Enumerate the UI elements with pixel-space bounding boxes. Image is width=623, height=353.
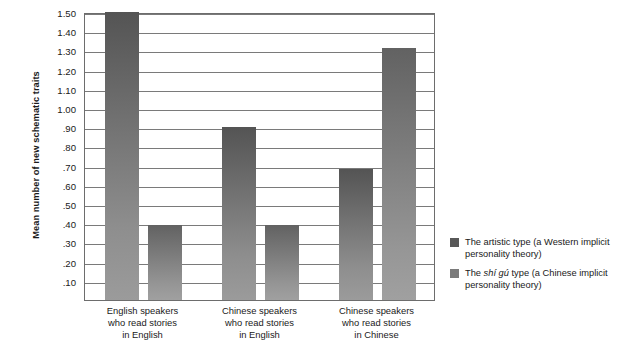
legend-item-1: The shí gú type (a Chinese implicitperso… — [450, 267, 618, 292]
bar-series-1-category-1 — [265, 225, 299, 300]
x-axis-category-line: in English — [84, 329, 201, 341]
bar-series-1-category-2 — [382, 48, 416, 300]
y-axis-tick-label: 1.10 — [57, 84, 76, 95]
x-axis-category-line: in English — [201, 329, 318, 341]
x-axis-category-line: English speakers — [84, 305, 201, 317]
y-axis-tick-label: 1.40 — [57, 27, 76, 38]
x-axis-category-label: English speakerswho read storiesin Engli… — [84, 305, 201, 342]
x-axis-category-labels: English speakerswho read storiesin Engli… — [84, 305, 435, 351]
legend-label: The shí gú type (a Chinese implicitperso… — [465, 267, 608, 292]
y-axis-tick-label: .80 — [63, 142, 76, 153]
x-axis-category-line: who read stories — [201, 317, 318, 329]
bar-series-0-category-0 — [105, 12, 139, 300]
y-axis-tick-label: 1.20 — [57, 65, 76, 76]
bar-series-container — [85, 14, 434, 300]
legend-label-line2: personality theory) — [465, 280, 541, 290]
bar-series-1-category-0 — [148, 225, 182, 300]
x-axis-category-label: Chinese speakerswho read storiesin Chine… — [318, 305, 435, 342]
y-axis-tick-label: 1.00 — [57, 104, 76, 115]
legend-swatch-icon — [450, 238, 459, 247]
bar-chart-figure: Mean number of new schematic traits 1.50… — [0, 0, 623, 353]
y-axis-tick-labels: 1.501.401.301.201.101.00.90.80.70.60.50.… — [40, 13, 80, 301]
x-axis-category-line: who read stories — [318, 317, 435, 329]
legend-label-italic-term: shí gú — [484, 268, 509, 278]
y-axis-tick-label: 1.30 — [57, 46, 76, 57]
bar-series-0-category-2 — [339, 169, 373, 300]
y-axis-tick-label: .90 — [63, 123, 76, 134]
legend-label: The artistic type (a Western implicitper… — [465, 236, 610, 261]
x-axis-category-line: who read stories — [84, 317, 201, 329]
x-axis-category-line: Chinese speakers — [201, 305, 318, 317]
bar-series-0-category-1 — [222, 127, 256, 300]
x-axis-category-line: Chinese speakers — [318, 305, 435, 317]
x-axis-category-label: Chinese speakerswho read storiesin Engli… — [201, 305, 318, 342]
y-axis-tick-label: .50 — [63, 200, 76, 211]
legend-label-line2: personality theory) — [465, 249, 541, 259]
y-axis-tick-label: .60 — [63, 180, 76, 191]
legend-swatch-icon — [450, 269, 459, 278]
y-axis-tick-label: .10 — [63, 276, 76, 287]
chart-legend: The artistic type (a Western implicitper… — [450, 236, 618, 298]
legend-item-0: The artistic type (a Western implicitper… — [450, 236, 618, 261]
y-axis-tick-label: 1.50 — [57, 8, 76, 19]
y-axis-tick-label: .40 — [63, 219, 76, 230]
x-axis-category-line: in Chinese — [318, 329, 435, 341]
plot-area — [84, 13, 435, 301]
y-axis-tick-label: .30 — [63, 238, 76, 249]
y-axis-tick-label: .70 — [63, 161, 76, 172]
y-axis-tick-label: .20 — [63, 257, 76, 268]
